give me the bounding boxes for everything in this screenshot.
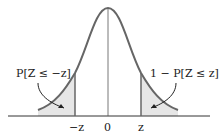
left-tail-label: P[Z ≤ −z] xyxy=(16,67,71,80)
tick-zero: 0 xyxy=(104,121,111,134)
tick-pos-z: z xyxy=(138,121,144,134)
tick-neg-z: −z xyxy=(69,121,84,134)
normal-curve-diagram: P[Z ≤ −z] 1 − P[Z ≤ z] −z 0 z xyxy=(0,0,219,137)
right-tail-label: 1 − P[Z ≤ z] xyxy=(150,67,219,80)
